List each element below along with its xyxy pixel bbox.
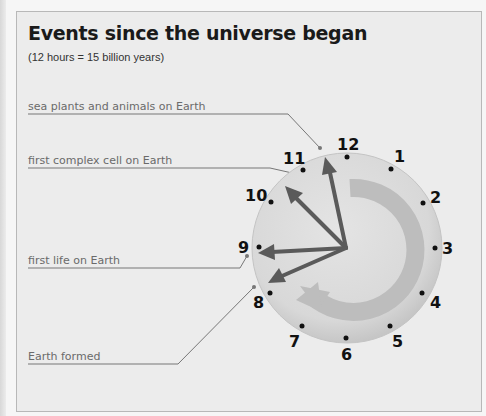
svg-text:7: 7 [289, 332, 300, 351]
svg-text:9: 9 [238, 238, 249, 257]
svg-text:5: 5 [392, 332, 403, 351]
svg-text:3: 3 [442, 239, 453, 258]
svg-text:6: 6 [341, 345, 352, 364]
clock-diagram: 12 1 2 3 4 5 6 7 8 9 10 11 [0, 0, 486, 416]
svg-text:12: 12 [337, 135, 359, 154]
svg-text:2: 2 [430, 188, 441, 207]
svg-text:10: 10 [245, 186, 267, 205]
svg-text:11: 11 [283, 149, 305, 168]
svg-text:4: 4 [430, 293, 441, 312]
svg-text:1: 1 [394, 147, 405, 166]
svg-text:8: 8 [253, 293, 264, 312]
